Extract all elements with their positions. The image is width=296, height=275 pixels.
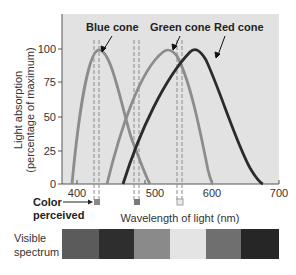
perceived-green-swatch <box>134 199 140 205</box>
x-tick-label: 600 <box>203 187 221 199</box>
arrow-head-icon <box>88 200 93 205</box>
red-cone-label: Red cone <box>214 21 264 33</box>
spectrum-label-line2: spectrum <box>14 246 59 258</box>
y-tick-label: 100 <box>38 43 56 55</box>
color-perceived-label-line1: Color <box>33 196 62 208</box>
y-tick-label: 50 <box>44 111 56 123</box>
y-tick-label: 75 <box>44 76 56 88</box>
y-tick-label: 0 <box>50 178 56 190</box>
x-tick-label: 400 <box>68 187 86 199</box>
y-ticks <box>58 49 62 184</box>
x-tick-label: 700 <box>270 187 288 199</box>
perceived-blue-swatch <box>94 199 100 205</box>
y-tick-label: 25 <box>44 145 56 157</box>
x-axis-label: Wavelength of light (nm) <box>121 212 240 224</box>
color-perceived-label-line2: perceived <box>33 209 84 221</box>
visible-spectrum-bar <box>62 229 279 259</box>
y-axis-label-line1: Light absorption <box>12 71 24 149</box>
spectrum-label-line1: Visible <box>14 232 46 244</box>
perceived-red-swatch <box>177 199 183 205</box>
y-axis-label-line2: (percentage of maximum) <box>24 47 36 172</box>
blue-cone-label: Blue cone <box>86 21 139 33</box>
x-tick-label: 500 <box>146 187 164 199</box>
green-cone-label: Green cone <box>150 21 211 33</box>
cone-absorption-chart: 0 25 50 75 100 Light absorption (percent… <box>0 0 296 275</box>
